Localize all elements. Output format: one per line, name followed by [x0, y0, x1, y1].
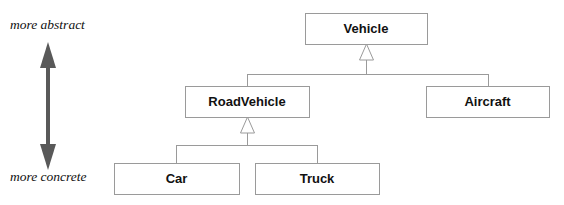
class-name-label: RoadVehicle: [208, 94, 285, 109]
class-name-label: Vehicle: [344, 21, 389, 36]
class-boxes-layer: VehicleRoadVehicleAircraftCarTruck: [115, 14, 550, 195]
diagram-canvas: VehicleRoadVehicleAircraftCarTruck more …: [0, 0, 564, 205]
class-box-aircraft[interactable]: Aircraft: [427, 87, 550, 118]
class-box-vehicle[interactable]: Vehicle: [306, 14, 428, 45]
axis-label-more-abstract: more abstract: [10, 17, 86, 32]
class-box-car[interactable]: Car: [115, 164, 240, 195]
class-name-label: Car: [166, 171, 188, 186]
class-box-roadvehicle[interactable]: RoadVehicle: [186, 87, 310, 118]
arrow-down-icon: [40, 144, 56, 170]
arrow-up-icon: [40, 42, 56, 68]
abstraction-axis-layer: more abstract more concrete: [10, 17, 87, 184]
class-box-truck[interactable]: Truck: [256, 164, 380, 195]
generalization-arrowhead-icon: [360, 44, 374, 60]
class-name-label: Aircraft: [464, 94, 511, 109]
uml-class-diagram: VehicleRoadVehicleAircraftCarTruck more …: [0, 0, 564, 205]
axis-label-more-concrete: more concrete: [10, 169, 87, 184]
class-name-label: Truck: [300, 171, 335, 186]
generalization-arrowhead-icon: [241, 117, 255, 133]
